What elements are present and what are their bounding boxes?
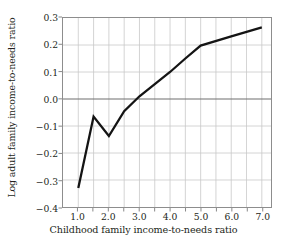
y-tick-label: 0.0 [30,93,58,104]
x-tick-label: 3.0 [124,211,154,222]
y-tick-label: −0.2 [30,148,58,159]
vertical-gridlines [78,18,262,207]
y-tick-label: 0.2 [30,39,58,50]
y-tick-label: 0.3 [30,12,58,23]
x-tick-label: 6.0 [217,211,247,222]
x-tick-label: 7.0 [248,211,278,222]
x-axis-title: Childhood family income-to-needs ratio [0,224,287,235]
y-tick-label: 0.1 [30,66,58,77]
plot-svg [63,18,271,207]
y-axis-title: Log adult family income-to-needs ratio [0,0,22,215]
plot-area [62,17,272,208]
y-axis-title-text: Log adult family income-to-needs ratio [6,17,17,197]
y-axis-tick-labels: 0.30.20.10.0−0.1−0.2−0.3−0.4 [26,17,58,208]
x-tick-label: 2.0 [93,211,123,222]
x-tick-label: 4.0 [155,211,185,222]
x-axis-tick-labels: 1.02.03.04.05.06.07.0 [62,211,272,225]
x-tick-label: 1.0 [62,211,92,222]
y-tick-label: −0.4 [30,203,58,214]
chart-figure: Log adult family income-to-needs ratio 0… [0,0,287,250]
horizontal-gridlines [63,45,271,180]
y-tick-label: −0.3 [30,175,58,186]
x-tick-label: 5.0 [186,211,216,222]
y-tick-label: −0.1 [30,121,58,132]
